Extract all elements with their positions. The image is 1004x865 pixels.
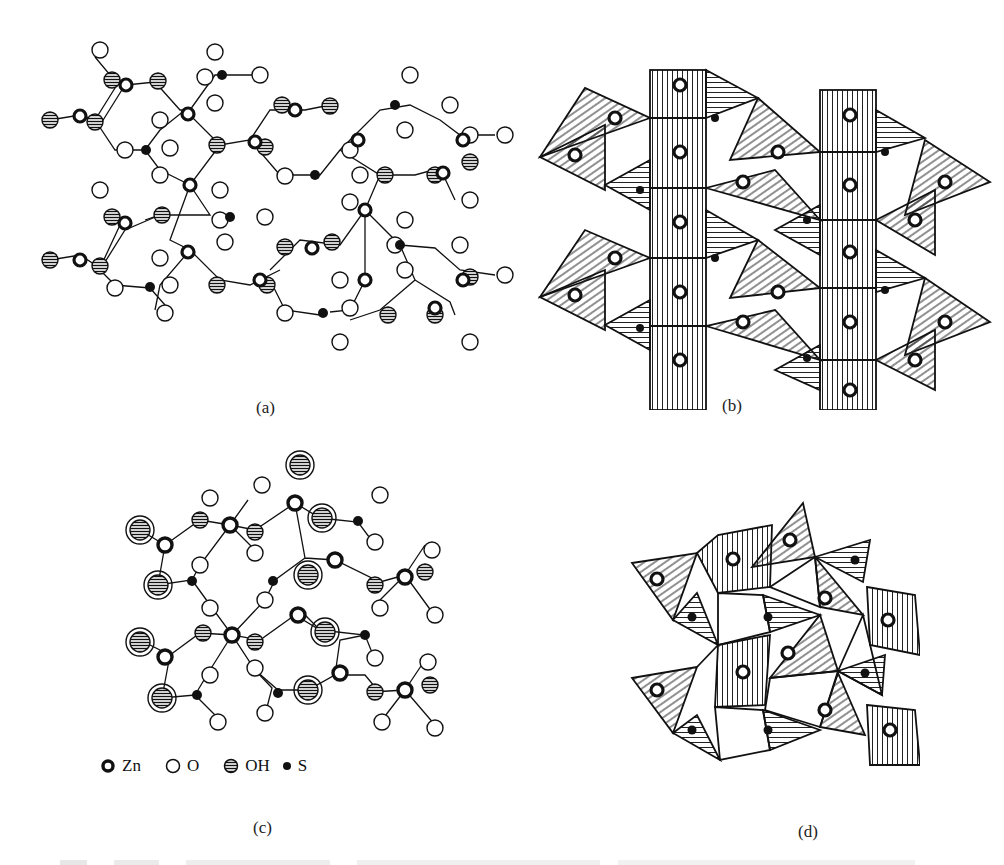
panel-d-label: (d) bbox=[798, 822, 818, 842]
panel-c-structure bbox=[100, 440, 480, 740]
legend: Zn O OH S bbox=[100, 756, 325, 776]
oxygen-legend-icon bbox=[165, 758, 181, 774]
sulfur-legend-icon bbox=[282, 758, 292, 774]
panel-d-structure bbox=[620, 495, 920, 785]
zinc-legend-icon bbox=[100, 758, 116, 774]
legend-label-o: O bbox=[187, 756, 199, 776]
panel-a-structure bbox=[20, 30, 520, 360]
panel-b-structure bbox=[530, 30, 1000, 410]
legend-label-zn: Zn bbox=[122, 756, 141, 776]
hydroxyl-legend-icon bbox=[223, 758, 239, 774]
legend-label-oh: OH bbox=[245, 756, 270, 776]
panel-b-drawing bbox=[530, 30, 1000, 410]
panel-a-label: (a) bbox=[256, 398, 275, 418]
panel-b-label: (b) bbox=[722, 396, 742, 416]
panel-c-drawing bbox=[100, 440, 480, 740]
legend-label-s: S bbox=[298, 756, 307, 776]
panel-d-drawing bbox=[620, 495, 920, 785]
cropped-caption bbox=[60, 860, 960, 865]
panel-a-drawing bbox=[20, 30, 520, 360]
hydroxyl-groups bbox=[126, 451, 438, 712]
panel-c-label: (c) bbox=[253, 818, 272, 838]
